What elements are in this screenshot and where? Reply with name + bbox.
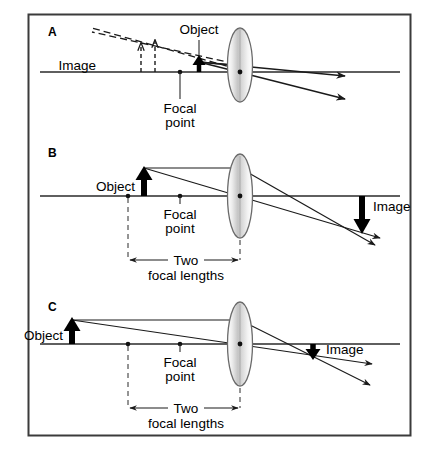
panel-c-dimension-label-line1: Two: [174, 401, 199, 416]
lens-ray-diagram-figure: A Image Object Focal point: [0, 0, 430, 456]
panel-b-lens-center-dot: [238, 194, 243, 199]
panel-a-label: A: [48, 25, 57, 39]
panel-a-object-label: Object: [179, 22, 218, 37]
panel-c-lens-center-dot: [238, 342, 243, 347]
panel-c-image-label: Image: [326, 342, 364, 357]
panel-c-object-label: Object: [24, 328, 63, 343]
panel-a-image-label: Image: [58, 58, 96, 73]
panel-b-object-base-dot: [126, 194, 131, 199]
panel-c-label: C: [48, 300, 57, 314]
panel-b-object-label: Object: [96, 179, 135, 194]
panel-c-focal-point-label-line1: Focal: [163, 355, 196, 370]
panel-b-dimension-label-line2: focal lengths: [148, 268, 224, 283]
panel-b-label: B: [48, 146, 57, 160]
panel-a-focal-point-label-line2: point: [165, 115, 195, 130]
panel-a-focal-point-label-line1: Focal: [163, 101, 196, 116]
figure-border: [29, 15, 411, 436]
panel-c-focal-point-label-line2: point: [165, 369, 195, 384]
panel-a-lens-center-dot: [238, 70, 243, 75]
panel-b-focal-point-label-line1: Focal: [163, 207, 196, 222]
panel-c-dimension-label-line2: focal lengths: [148, 416, 224, 431]
panel-b-dimension-label-line1: Two: [174, 253, 199, 268]
panel-b-image-label: Image: [373, 199, 411, 214]
panel-c-two-focal-dot: [126, 342, 131, 347]
panel-b-focal-point-label-line2: point: [165, 221, 195, 236]
